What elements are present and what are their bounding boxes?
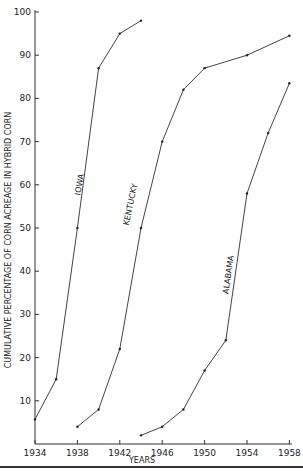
data-point	[161, 140, 163, 142]
data-point	[140, 227, 142, 229]
data-point	[140, 434, 142, 436]
x-tick-label: 1942	[108, 448, 131, 458]
data-point	[246, 192, 248, 194]
data-point	[161, 426, 163, 428]
data-point	[76, 227, 78, 229]
series-lines	[34, 19, 291, 436]
y-tick-label: 60	[20, 180, 32, 190]
data-point	[288, 35, 290, 37]
data-point	[97, 408, 99, 410]
series-label: IOWA	[73, 173, 86, 196]
data-point	[182, 89, 184, 91]
data-point	[288, 82, 290, 84]
data-point	[203, 67, 205, 69]
series-kentucky-line	[77, 36, 289, 427]
data-point	[34, 418, 36, 420]
series-alabama-line	[141, 83, 289, 435]
series-labels: IOWAKENTUCKYALABAMA	[73, 173, 236, 295]
y-tick-label: 90	[20, 50, 32, 60]
data-point	[203, 369, 205, 371]
x-tick-label: 1934	[24, 448, 47, 458]
y-tick-label: 40	[20, 266, 32, 276]
data-point	[225, 339, 227, 341]
data-point	[97, 67, 99, 69]
y-tick-label: 80	[20, 93, 32, 103]
data-point	[119, 32, 121, 34]
x-tick-label: 1954	[236, 448, 259, 458]
y-tick-label: 30	[20, 309, 32, 319]
data-point	[76, 426, 78, 428]
data-point	[55, 378, 57, 380]
data-point	[119, 348, 121, 350]
y-tick-label: 20	[20, 353, 32, 363]
y-tick-label: 70	[20, 137, 32, 147]
line-chart: 1020304050607080901001934193819421946195…	[0, 0, 303, 471]
data-point	[267, 132, 269, 134]
y-tick-label: 100	[14, 7, 31, 17]
axes: 1020304050607080901001934193819421946195…	[14, 7, 301, 458]
y-tick-label: 50	[20, 223, 32, 233]
data-point	[140, 19, 142, 21]
page-rule	[0, 466, 303, 468]
y-axis-label: CUMULATIVE PERCENTAGE OF CORN ACREAGE IN…	[4, 112, 13, 368]
x-tick-label: 1958	[278, 448, 301, 458]
series-label: KENTUCKY	[122, 183, 140, 227]
data-point	[182, 408, 184, 410]
data-point	[246, 54, 248, 56]
x-tick-label: 1938	[66, 448, 89, 458]
y-tick-label: 10	[20, 396, 32, 406]
x-tick-label: 1950	[193, 448, 216, 458]
x-axis-label: YEARS	[128, 456, 155, 465]
